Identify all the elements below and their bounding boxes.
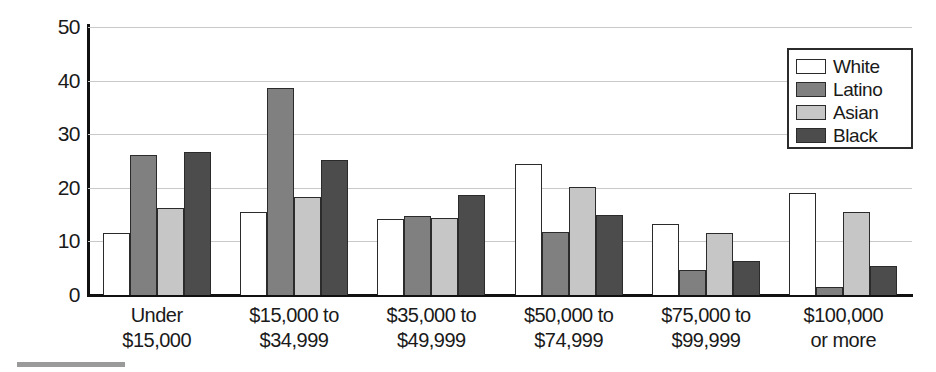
category-label-line2: $49,999 xyxy=(363,328,500,353)
bar-black xyxy=(321,160,348,295)
y-tick-label: 30 xyxy=(36,123,80,144)
category-label-line1: $50,000 to xyxy=(524,304,614,326)
category-label-line1: $35,000 to xyxy=(387,304,477,326)
category-label-line2: or more xyxy=(775,328,912,353)
bar-group xyxy=(637,27,774,295)
legend-swatch-black xyxy=(796,128,826,143)
legend-swatch-white xyxy=(796,59,826,74)
bar-group xyxy=(363,27,500,295)
category-label-line1: $75,000 to xyxy=(661,304,751,326)
category-label: $100,000or more xyxy=(775,300,912,362)
y-tick-label: 0 xyxy=(36,284,80,305)
bar-latino xyxy=(404,216,431,295)
bar-white xyxy=(240,212,267,295)
legend-item-white[interactable]: White xyxy=(796,55,905,77)
y-tick-label: 10 xyxy=(36,230,80,251)
bar-black xyxy=(870,266,897,295)
y-tick-label: 40 xyxy=(36,70,80,91)
bar-white xyxy=(377,219,404,295)
legend-label-asian: Asian xyxy=(833,103,879,122)
bar-white xyxy=(652,224,679,295)
bar-black xyxy=(184,152,211,295)
category-label: Under$15,000 xyxy=(88,300,225,362)
category-label-line2: $74,999 xyxy=(500,328,637,353)
legend-item-black[interactable]: Black xyxy=(796,124,905,146)
bar-latino xyxy=(816,287,843,295)
y-tick-label: 50 xyxy=(36,16,80,37)
bar-chart-figure: Percentage 01020304050 Under$15,000$15,0… xyxy=(0,0,936,372)
category-label: $15,000 to$34,999 xyxy=(225,300,362,362)
legend-swatch-asian xyxy=(796,105,826,120)
bar-black xyxy=(458,195,485,295)
category-label: $75,000 to$99,999 xyxy=(637,300,774,362)
bar-asian xyxy=(569,187,596,295)
category-label: $50,000 to$74,999 xyxy=(500,300,637,362)
legend: WhiteLatinoAsianBlack xyxy=(787,48,913,149)
x-axis-category-labels: Under$15,000$15,000 to$34,999$35,000 to$… xyxy=(88,300,912,362)
legend-item-asian[interactable]: Asian xyxy=(796,101,905,123)
y-tick-label: 20 xyxy=(36,177,80,198)
bar-black xyxy=(596,215,623,295)
category-label-line1: $15,000 to xyxy=(249,304,339,326)
category-label-line2: $15,000 xyxy=(88,328,225,353)
bar-asian xyxy=(431,218,458,295)
bar-latino xyxy=(542,232,569,295)
bar-latino xyxy=(267,88,294,295)
legend-label-black: Black xyxy=(833,126,877,145)
bar-asian xyxy=(157,208,184,295)
bar-group xyxy=(500,27,637,295)
bar-group xyxy=(225,27,362,295)
legend-label-white: White xyxy=(833,57,880,76)
bar-group xyxy=(88,27,225,295)
bar-white xyxy=(103,233,130,295)
category-label-line1: Under xyxy=(131,304,183,326)
legend-item-latino[interactable]: Latino xyxy=(796,78,905,100)
category-label-line1: $100,000 xyxy=(804,304,883,326)
legend-swatch-latino xyxy=(796,82,826,97)
bar-white xyxy=(789,193,816,295)
bar-white xyxy=(515,164,542,295)
bar-latino xyxy=(679,270,706,295)
bar-latino xyxy=(130,155,157,295)
footer-rule xyxy=(17,362,125,367)
bar-asian xyxy=(843,212,870,295)
bar-asian xyxy=(706,233,733,295)
category-label: $35,000 to$49,999 xyxy=(363,300,500,362)
legend-label-latino: Latino xyxy=(833,80,882,99)
category-label-line2: $34,999 xyxy=(225,328,362,353)
y-axis-tick-labels: 01020304050 xyxy=(36,0,80,372)
category-label-line2: $99,999 xyxy=(637,328,774,353)
bar-asian xyxy=(294,197,321,295)
bar-black xyxy=(733,261,760,295)
